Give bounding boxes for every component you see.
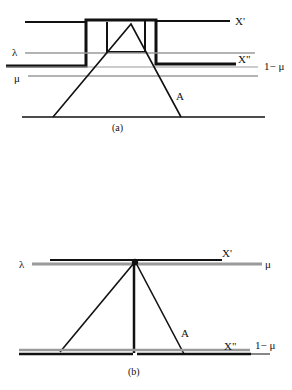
label-x-prime-b: X' [222,247,232,259]
label-one-minus-mu-b: 1− μ [255,339,275,351]
caption-a: (a) [112,122,123,134]
inner-rect [107,21,145,52]
label-a-a: A [176,90,184,102]
label-x-prime-a: X' [235,15,245,27]
diagram-a: X' X" λ μ 1− μ A (a) [6,15,284,134]
label-x-double-prime-a: X" [238,53,250,65]
label-x-double-prime-b: X" [224,340,236,352]
triangle-left-side-b [60,263,134,352]
diagram-b: X' λ μ A X" 1− μ (b) [19,247,275,378]
triangle-right-side-b [136,263,184,354]
label-a-b: A [181,327,189,339]
triangle-a [53,24,181,117]
label-lambda-b: λ [19,258,25,270]
label-mu-a: μ [14,72,20,84]
caption-b: (b) [128,366,140,378]
figure-canvas: X' X" λ μ 1− μ A (a) X' λ μ A X" 1− μ (b… [0,0,292,390]
label-mu-b: μ [265,258,271,270]
label-one-minus-mu-a: 1− μ [264,60,284,72]
x-double-prime-step [6,20,236,66]
label-lambda-a: λ [12,46,18,58]
